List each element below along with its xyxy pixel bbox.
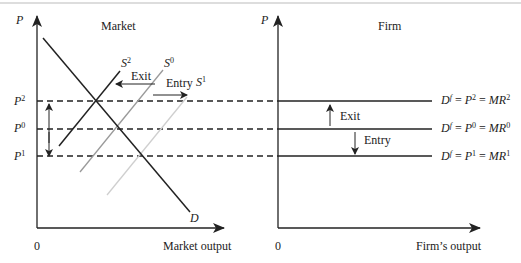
market-title: Market	[101, 20, 136, 32]
supply-label-s0: S0	[164, 57, 174, 69]
firm-demand-label-p0: Df = P0 = MR0	[441, 122, 510, 134]
firm-demand-label-p2: Df = P2 = MR2	[441, 94, 510, 106]
supply-curve-s1	[107, 97, 187, 195]
firm-x-axis-label: Firm’s output	[416, 240, 481, 252]
market-x-axis-label: Market output	[163, 240, 231, 252]
firm-origin-label: 0	[275, 240, 281, 252]
entry-label-firm: Entry	[364, 134, 391, 146]
firm-title: Firm	[378, 20, 401, 32]
market-y-axis-label: P	[16, 14, 23, 26]
supply-label-s1: S1	[196, 76, 206, 88]
entry-label-market: Entry	[166, 77, 193, 89]
price-label-p1: P1	[14, 150, 25, 162]
demand-label: D	[190, 212, 199, 224]
supply-label-s2: S2	[121, 57, 131, 69]
exit-label-firm: Exit	[340, 110, 360, 122]
firm-y-axis-label: P	[261, 14, 268, 26]
exit-label-market: Exit	[131, 70, 151, 82]
price-label-p2: P2	[14, 95, 25, 107]
market-origin-label: 0	[34, 240, 40, 252]
supply-curve-s0	[80, 70, 163, 172]
price-label-p0: P0	[14, 122, 25, 134]
firm-demand-label-p1: Df = P1 = MR1	[441, 150, 510, 162]
